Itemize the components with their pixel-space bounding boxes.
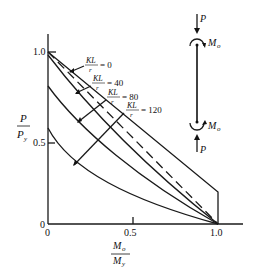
- svg-text:y: y: [121, 260, 126, 268]
- svg-text:KL: KL: [107, 88, 118, 97]
- load-arrow-top-icon: [194, 28, 200, 34]
- svg-text:o: o: [122, 245, 126, 253]
- svg-text:P: P: [16, 128, 24, 140]
- svg-text:r: r: [96, 84, 99, 92]
- svg-text:P: P: [19, 112, 27, 124]
- label-kl-0: KL r = 0: [69, 56, 112, 74]
- load-arrow-bottom-icon: [194, 134, 200, 140]
- svg-text:M: M: [112, 240, 122, 251]
- svg-text:M: M: [207, 120, 217, 131]
- svg-text:KL: KL: [126, 101, 137, 110]
- svg-text:M: M: [112, 255, 122, 266]
- column-sketch: P M o M o P: [190, 13, 221, 155]
- svg-text:KL: KL: [92, 74, 103, 83]
- interaction-diagram: 1.0 0.5 0 0 0.5 1.0 P P y M o M y KL r =…: [0, 0, 254, 274]
- svg-text:KL: KL: [85, 56, 96, 65]
- y-axis-label: P P y: [16, 112, 30, 143]
- y-tick-label-05: 0.5: [33, 137, 46, 148]
- svg-text:o: o: [217, 42, 221, 50]
- svg-text:y: y: [23, 135, 28, 143]
- x-axis-label: M o M y: [111, 240, 130, 268]
- y-tick-label-1: 1.0: [33, 46, 46, 57]
- svg-text:P: P: [199, 144, 206, 155]
- moment-arrow-bottom-icon: [202, 120, 207, 125]
- x-tick-label-05: 0.5: [124, 227, 137, 238]
- svg-text:r: r: [89, 66, 92, 74]
- svg-text:= 40: = 40: [107, 78, 124, 88]
- moment-arrow-top-icon: [202, 43, 206, 48]
- svg-text:= 120: = 120: [141, 105, 162, 115]
- svg-text:M: M: [207, 37, 217, 48]
- svg-text:P: P: [199, 13, 206, 24]
- x-tick-label-0: 0: [45, 227, 50, 238]
- svg-text:r: r: [130, 111, 133, 119]
- curve-kl-40: [48, 55, 218, 224]
- x-tick-label-1: 1.0: [210, 227, 223, 238]
- svg-text:o: o: [217, 125, 221, 133]
- svg-text:r: r: [111, 98, 114, 106]
- svg-text:= 0: = 0: [100, 60, 112, 70]
- curve-plastic-dashed: [48, 52, 218, 224]
